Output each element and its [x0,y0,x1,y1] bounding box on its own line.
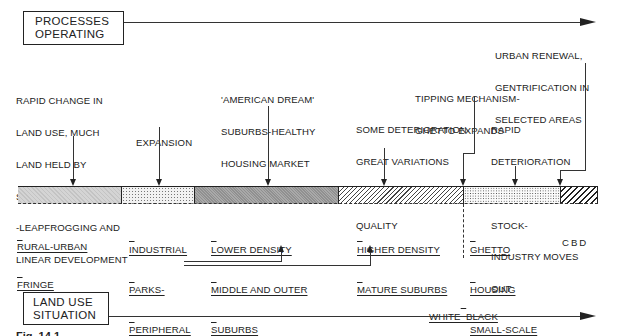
arrowhead-up-icon [367,245,373,252]
land-use-gradient-bar [18,186,598,204]
connector-lower-density-riser [281,251,282,261]
arrow-ghetto [515,166,516,180]
arrowhead-down-icon [460,179,466,186]
connector-service-to-lower-density [184,261,282,262]
bar-segment-cbd [560,187,598,204]
arrowhead-down-icon [557,179,563,186]
arrow-cbd-vertical-upper [585,63,586,170]
process-cbd: URBAN RENEWAL, GENTRIFICATION IN SELECTE… [495,30,589,136]
white-black-interface-line [463,204,464,258]
bar-segment-industrial [121,187,195,204]
land-use-situation-box: LAND USE SITUATION [23,292,109,325]
arrowhead-up-icon [278,245,284,252]
bar-segment-higher-density [338,187,463,204]
land-use-timeline-arrow [109,316,582,317]
arrowhead-down-icon [265,179,271,186]
arrowhead-down-icon [381,179,387,186]
arrow-tipping-vertical-lower [463,153,464,180]
bar-segment-ghetto [463,187,560,204]
land-use-box-line1: LAND USE [33,296,108,309]
arrow-tipping-vertical-upper [474,96,475,153]
arrowhead-down-icon [512,179,518,186]
processes-operating-box: PROCESSES OPERATING [23,11,124,45]
bar-bottom-dashed-edge [18,203,598,204]
processes-box-line2: OPERATING [35,28,123,41]
figure-caption: Fig. 14.1 [16,330,60,336]
arrow-tipping-horizontal [463,153,475,154]
connector-higher-density-riser [370,251,371,265]
processes-timeline-arrow [124,22,582,23]
landuse-rural-urban: RURAL-URBAN FRINGE [17,216,87,304]
arrowhead-down-icon [70,179,76,186]
white-black-interface-label: WHITE BLACK INTERFACE [429,282,498,336]
process-industrial: EXPANSION [136,117,192,159]
arrow-rural-urban [73,136,74,180]
connector-service-to-higher-density [184,265,371,266]
bar-segment-lower-density [195,187,338,204]
arrow-lower-density [268,106,269,180]
landuse-lower-density: LOWER DENSITY MIDDLE AND OUTER SUBURBS [211,216,307,336]
arrowhead-right-icon [580,312,596,320]
arrowhead-right-icon [580,18,596,26]
arrow-cbd-horizontal [560,170,586,171]
bar-segment-rural-urban [18,187,121,204]
landuse-cbd: CBD [562,217,588,259]
landuse-industrial: INDUSTRIAL PARKS- PERIPHERAL SERVICE CEN… [129,216,191,336]
arrowhead-down-icon [156,179,162,186]
arrow-industrial [159,127,160,180]
processes-box-line1: PROCESSES [35,15,123,28]
arrow-higher-density [384,148,385,180]
land-use-box-line2: SITUATION [33,309,108,322]
